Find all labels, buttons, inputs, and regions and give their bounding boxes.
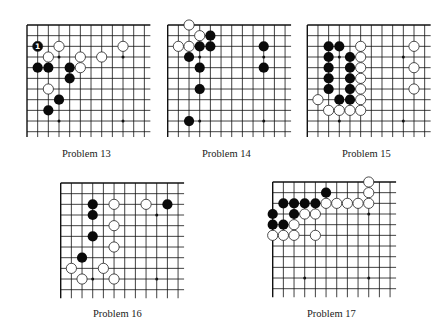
black-stone	[321, 188, 331, 198]
go-boards: 1	[0, 0, 448, 331]
black-stone	[65, 73, 75, 83]
white-stone	[184, 41, 194, 51]
black-stone	[205, 31, 215, 41]
black-stone	[205, 41, 215, 51]
white-stone	[278, 230, 288, 240]
white-stone	[324, 105, 334, 115]
white-stone	[109, 199, 119, 209]
star-point	[122, 120, 125, 123]
black-stone	[324, 63, 334, 73]
white-stone	[300, 209, 310, 219]
star-point	[262, 56, 265, 59]
black-stone	[324, 52, 334, 62]
white-stone	[321, 198, 331, 208]
white-stone	[356, 41, 366, 51]
star-point	[402, 120, 405, 123]
white-stone	[289, 220, 299, 230]
star-point	[198, 56, 201, 59]
move-number: 1	[35, 42, 40, 51]
black-stone	[345, 52, 355, 62]
white-stone	[334, 105, 344, 115]
problem-13-label: Problem 13	[62, 148, 111, 159]
white-stone	[313, 95, 323, 105]
black-stone	[88, 199, 98, 209]
white-stone	[409, 63, 419, 73]
star-point	[198, 120, 201, 123]
white-stone	[268, 230, 278, 240]
black-stone	[345, 95, 355, 105]
problem-15-label: Problem 15	[342, 148, 391, 159]
black-stone	[289, 209, 299, 219]
white-stone	[356, 95, 366, 105]
problem-17-label: Problem 17	[307, 308, 356, 319]
black-stone	[268, 220, 278, 230]
black-stone	[345, 84, 355, 94]
star-point	[91, 278, 94, 281]
white-stone	[66, 263, 76, 273]
black-stone	[43, 63, 53, 73]
white-stone	[77, 274, 87, 284]
white-stone	[356, 105, 366, 115]
white-stone	[310, 209, 320, 219]
black-stone	[324, 73, 334, 83]
white-stone	[332, 198, 342, 208]
black-stone	[310, 198, 320, 208]
star-point	[122, 56, 125, 59]
white-stone	[109, 221, 119, 231]
star-point	[58, 120, 61, 123]
black-stone	[268, 209, 278, 219]
white-stone	[173, 41, 183, 51]
board-p17	[268, 177, 396, 297]
white-stone	[356, 73, 366, 83]
white-stone	[195, 31, 205, 41]
star-point	[303, 277, 306, 280]
white-stone	[364, 198, 374, 208]
black-stone	[278, 220, 288, 230]
white-stone	[356, 52, 366, 62]
board-p15	[307, 25, 430, 137]
white-stone	[97, 52, 107, 62]
board-p16	[61, 183, 184, 298]
white-stone	[43, 52, 53, 62]
white-stone	[75, 52, 85, 62]
white-stone	[364, 188, 374, 198]
black-stone	[334, 95, 344, 105]
black-stone	[162, 199, 172, 209]
white-stone	[289, 230, 299, 240]
black-stone	[259, 63, 269, 73]
star-point	[367, 277, 370, 280]
white-stone	[310, 230, 320, 240]
board-p14	[168, 20, 291, 137]
black-stone	[33, 63, 43, 73]
black-stone	[278, 198, 288, 208]
white-stone	[364, 177, 374, 187]
white-stone	[75, 63, 85, 73]
star-point	[155, 214, 158, 217]
white-stone	[43, 84, 53, 94]
white-stone	[356, 63, 366, 73]
white-stone	[409, 41, 419, 51]
white-stone	[409, 84, 419, 94]
star-point	[367, 213, 370, 216]
white-stone	[109, 274, 119, 284]
white-stone	[118, 41, 128, 51]
black-stone	[77, 253, 87, 263]
black-stone	[259, 41, 269, 51]
black-stone	[334, 41, 344, 51]
black-stone	[195, 41, 205, 51]
black-stone	[88, 231, 98, 241]
white-stone	[345, 105, 355, 115]
black-stone	[300, 198, 310, 208]
problem-14-label: Problem 14	[202, 148, 251, 159]
white-stone	[184, 20, 194, 30]
white-stone	[141, 199, 151, 209]
black-stone	[88, 210, 98, 220]
star-point	[402, 56, 405, 59]
black-stone	[345, 63, 355, 73]
white-stone	[356, 84, 366, 94]
black-stone	[54, 95, 64, 105]
black-stone	[195, 63, 205, 73]
star-point	[58, 56, 61, 59]
white-stone	[54, 41, 64, 51]
star-point	[338, 120, 341, 123]
